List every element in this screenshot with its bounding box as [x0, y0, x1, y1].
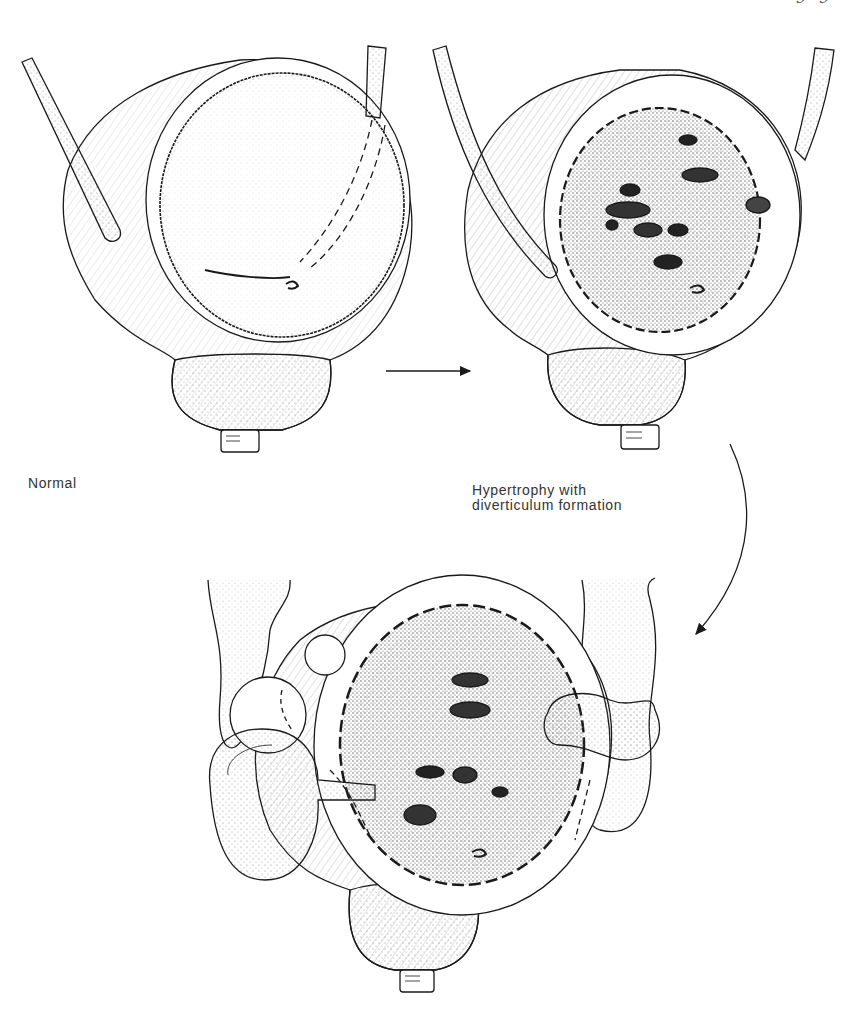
- label-hypertrophy-line-2: diverticulum formation: [472, 498, 622, 513]
- label-hypertrophy: Hypertrophy with diverticulum formation: [472, 483, 622, 513]
- diverticula-bladder-illustration: [208, 575, 659, 992]
- figure-canvas: [0, 0, 859, 1014]
- arrow-hypertrophy-to-diverticula: [696, 444, 747, 634]
- normal-bladder-illustration: [22, 46, 412, 452]
- hypertrophy-bladder-illustration: [433, 46, 834, 449]
- label-hypertrophy-line-1: Hypertrophy with: [472, 483, 622, 498]
- label-normal: Normal: [28, 476, 77, 491]
